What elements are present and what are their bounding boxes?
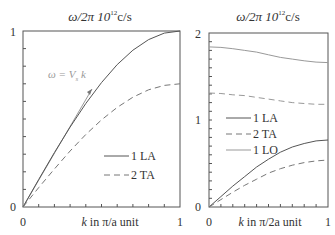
right-legend-la: 1 LA (253, 111, 278, 125)
left-legend-ta: 2 TA (131, 168, 155, 182)
right-xlabel: k in π/2a unit (238, 215, 302, 229)
right-legend-lo: 1 LO (253, 143, 278, 157)
right-ytick-0: 0 (195, 200, 201, 214)
left-curve-ta (23, 84, 180, 207)
left-ytick-1: 1 (10, 25, 16, 39)
right-xtick-0: 0 (206, 215, 212, 229)
right-curve-ta (209, 160, 328, 207)
right-curve-to (209, 93, 328, 104)
left-ytick-0: 0 (10, 200, 16, 214)
arrow-head-icon (87, 89, 92, 95)
left-xtick-0: 0 (20, 215, 26, 229)
right-plot: ω/2π 1012c/s 2 1 0 0 1 k in π/2a unit 1 … (195, 9, 331, 229)
left-xlabel: k in π/a unit (81, 215, 139, 229)
left-title: ω/2π 1012c/s (68, 9, 132, 24)
right-title: ω/2π 1012c/s (236, 9, 300, 24)
left-ticks (23, 49, 164, 207)
left-xtick-1: 1 (177, 215, 183, 229)
right-ytick-2: 2 (195, 27, 201, 41)
tangent-annotation: ω = Vs k (48, 68, 87, 83)
left-axes-frame (23, 31, 180, 207)
left-curve-la (23, 31, 180, 207)
figure: ω/2π 1012c/s 1 0 0 1 k in π/a unit ω = V… (0, 0, 335, 235)
right-curve-lo (209, 47, 328, 63)
left-plot: ω/2π 1012c/s 1 0 0 1 k in π/a unit ω = V… (10, 9, 183, 229)
right-xtick-1: 1 (325, 215, 331, 229)
left-legend-la: 1 LA (131, 149, 156, 163)
right-ytick-1: 1 (195, 113, 201, 127)
right-legend-ta: 2 TA (253, 127, 277, 141)
